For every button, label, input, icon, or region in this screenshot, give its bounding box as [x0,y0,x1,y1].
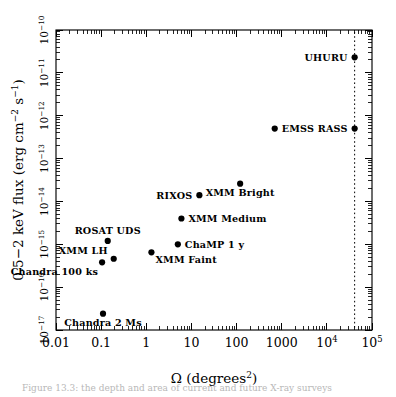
y-tick-label-group: 10−1710−1610−1510−1410−1310−1210−1110−10 [37,15,50,344]
x-tick-label: 0.1 [91,335,111,350]
y-tick-label: 10−14 [37,187,50,216]
data-point-label: ROSAT UDS [75,225,141,236]
y-tick-label: 10−10 [37,15,50,44]
figure-caption: Figure 13.3: the depth and area of curre… [0,383,396,397]
plot-frame [56,30,372,330]
data-point-label: EMSS [282,123,314,134]
data-point-label: XMM LH [59,245,108,256]
svg-text:10−11: 10−11 [37,58,50,87]
svg-text:10−15: 10−15 [37,229,50,258]
y-tick-label: 10−11 [37,58,50,87]
data-point [352,126,358,132]
data-point [99,259,105,265]
data-point-label: ChaMP 1 y [185,239,245,250]
figure-container: Chandra 2 MsChandra 100 ksXMM LHROSAT UD… [0,0,396,397]
data-point-group [99,54,358,317]
data-point-label: RASS [318,123,348,134]
y-tick-label: 10−13 [37,144,50,173]
x-tick-label: 1 [142,335,150,350]
svg-text:0.5−2 keV flux (erg cm−2 s−1): 0.5−2 keV flux (erg cm−2 s−1) [10,79,26,281]
y-axis-title: 0.5−2 keV flux (erg cm−2 s−1) [10,79,26,281]
y-tick-label: 10−17 [37,315,50,344]
data-point [352,54,358,60]
scatter-plot: Chandra 2 MsChandra 100 ksXMM LHROSAT UD… [0,0,396,397]
data-point [148,249,154,255]
data-point-label: XMM Faint [155,254,217,265]
x-tick-label-group: 0.010.11101001000104105 [42,334,383,350]
x-tick-label: 100 [225,335,249,350]
svg-text:10−12: 10−12 [37,101,50,130]
minor-tick-group [56,30,372,330]
data-point [196,192,202,198]
data-point [272,126,278,132]
data-point-label: UHURU [304,52,348,63]
svg-text:10−17: 10−17 [37,315,50,344]
y-tick-label: 10−12 [37,101,50,130]
data-point-label: Chandra 2 Ms [64,317,142,328]
data-point [111,256,117,262]
svg-text:10−14: 10−14 [37,187,50,216]
axes-frame [56,30,372,330]
svg-text:10−10: 10−10 [37,15,50,44]
svg-text:10−13: 10−13 [37,144,50,173]
data-point-label: RIXOS [156,190,192,201]
x-tick-label: 10 [183,335,199,350]
x-tick-label: 1000 [266,335,298,350]
data-point [175,241,181,247]
data-point [178,215,184,221]
y-tick-label: 10−15 [37,229,50,258]
x-tick-label: 104 [316,334,337,350]
major-tick-group [56,30,372,330]
data-point-label: XMM Medium [188,213,266,224]
data-point-label: XMM Bright [206,187,275,198]
x-tick-label: 105 [361,334,382,350]
data-label-group: Chandra 2 MsChandra 100 ksXMM LHROSAT UD… [11,52,348,328]
data-point [105,238,111,244]
